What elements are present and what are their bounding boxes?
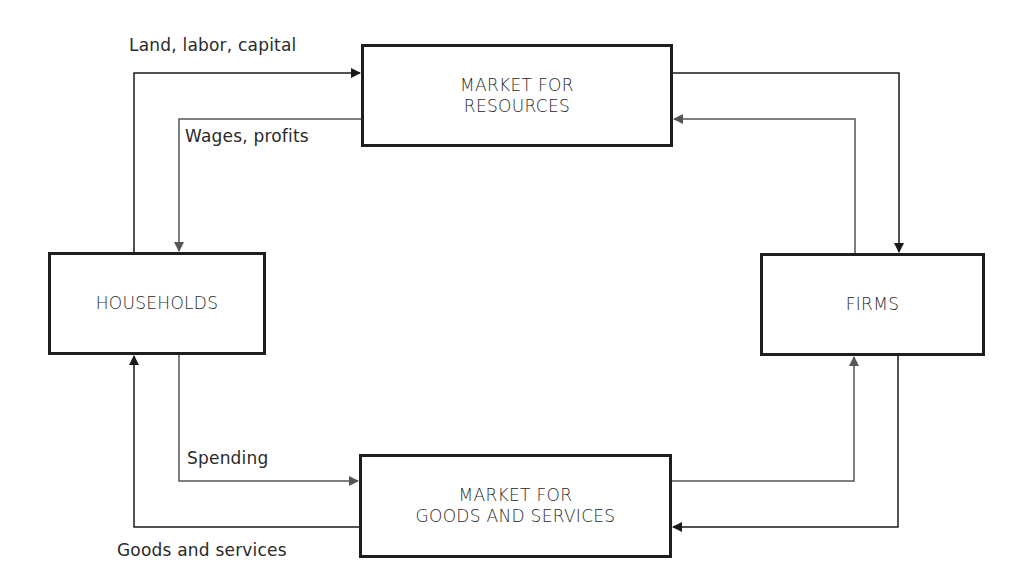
- flow-land-labor-capital: [134, 73, 360, 253]
- flow-firms-output: [673, 355, 898, 527]
- households-node: HOUSEHOLDS: [48, 252, 266, 355]
- flow-goods-services: [134, 356, 360, 527]
- flow-revenue-to-firms: [671, 357, 854, 481]
- firms-node: FIRMS: [760, 253, 985, 356]
- resources-market-line1: MARKET FOR: [460, 75, 574, 95]
- goods-market-node: MARKET FORGOODS AND SERVICES: [359, 454, 672, 558]
- flow-firms-payments: [674, 119, 855, 254]
- firms-label: FIRMS: [846, 294, 900, 315]
- wages-profits-label: Wages, profits: [185, 126, 309, 146]
- spending-label: Spending: [187, 448, 269, 468]
- resources-market-node: MARKET FORRESOURCES: [361, 44, 673, 147]
- goods-services-label: Goods and services: [117, 540, 287, 560]
- flow-resources-to-firms: [672, 73, 899, 252]
- land-labor-capital-label: Land, labor, capital: [129, 35, 296, 55]
- goods-market-line1: MARKET FOR: [459, 485, 573, 505]
- goods-market-line2: GOODS AND SERVICES: [416, 506, 616, 526]
- resources-market-line2: RESOURCES: [464, 96, 570, 116]
- households-label: HOUSEHOLDS: [96, 293, 219, 314]
